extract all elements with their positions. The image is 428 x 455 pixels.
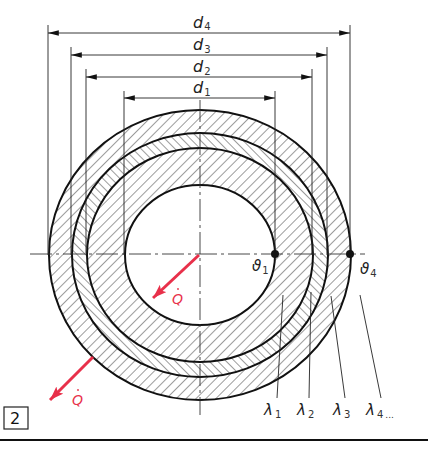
label-d4: d4 <box>193 13 211 32</box>
label-theta1: ϑ1 <box>252 257 269 276</box>
temperature-point-1 <box>271 250 279 258</box>
label-qdot-outer: Q <box>72 392 83 408</box>
figure-number-box: 2 <box>4 407 28 429</box>
concentric-cylinder-heat-conduction-diagram: d4 d3 d2 d1 ϑ1 ϑ4 λ1 λ2 λ3 λ4... Q Q 2 <box>0 0 428 455</box>
label-lambda1: λ1 <box>263 401 281 420</box>
temperature-point-4 <box>346 250 354 258</box>
label-lambda4: λ4... <box>365 401 394 420</box>
qdot-outer-accent <box>77 389 79 391</box>
label-qdot-inner: Q <box>172 291 183 307</box>
svg-text:2: 2 <box>10 409 20 428</box>
label-d1: d1 <box>193 78 211 98</box>
label-lambda2: λ2 <box>296 401 314 420</box>
qdot-inner-accent <box>177 288 179 290</box>
label-d3: d3 <box>193 35 211 55</box>
label-theta4: ϑ4 <box>360 260 377 279</box>
label-d2: d2 <box>193 57 211 77</box>
label-lambda3: λ3 <box>332 401 350 420</box>
